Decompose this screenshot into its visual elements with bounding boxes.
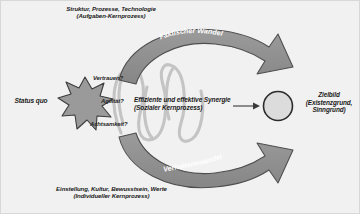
caption-top-line2: (Aufgaben-Kernprozess) xyxy=(31,12,191,19)
question-vertrauen: Vertrauen? xyxy=(93,75,123,82)
zielbild-line3: Sinngrund) xyxy=(299,106,359,114)
synergy-label: Effiziente und effektive Synergie (Sozia… xyxy=(134,96,242,111)
zielbild-line1: Zielbild xyxy=(299,91,359,99)
status-quo-label: Status quo xyxy=(3,97,59,105)
synergy-line2: (Sozialer Kernprozess) xyxy=(134,104,242,112)
zielbild-label: Zielbild (Existenzgrund, Sinngrund) xyxy=(299,91,359,114)
arrow-bottom-label: Verhaltenswandel xyxy=(163,152,224,173)
caption-top-line1: Struktur, Prozesse, Technologie xyxy=(31,5,191,12)
question-achtsamkeit: Achtsamkeit? xyxy=(90,121,127,128)
caption-bottom-line2: (Individueller Kernprozess) xyxy=(29,192,194,199)
arrow-faktischer-wandel xyxy=(119,29,293,84)
caption-bottom: Einstellung, Kultur, Bewusstsein, Werte … xyxy=(29,185,194,199)
synergy-line1: Effiziente und effektive Synergie xyxy=(134,96,242,104)
question-agilitaet: Agilität? xyxy=(101,98,124,105)
zielbild-line2: (Existenzgrund, xyxy=(299,99,359,107)
goal-circle-icon xyxy=(264,92,293,121)
caption-bottom-line1: Einstellung, Kultur, Bewusstsein, Werte xyxy=(29,185,194,192)
diagram-canvas: Faktischer Wandel Verhaltenswandel Struk… xyxy=(0,0,360,214)
caption-top: Struktur, Prozesse, Technologie (Aufgabe… xyxy=(31,5,191,19)
